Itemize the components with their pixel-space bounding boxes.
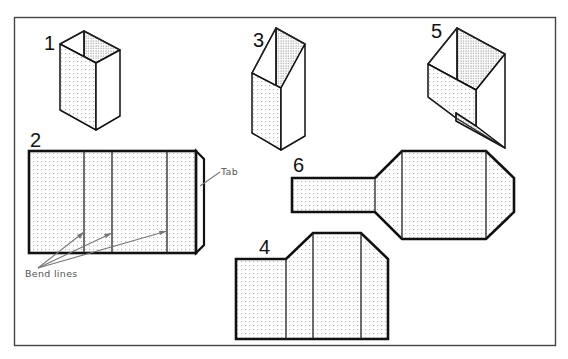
figure-6-development: 6 [292, 151, 514, 239]
figure-5-label: 5 [431, 20, 442, 42]
figure-1-label: 1 [44, 32, 55, 54]
figure-6-label: 6 [293, 154, 304, 176]
figure-4-development: 4 [236, 233, 388, 339]
diagram-canvas: 1 3 5 [0, 0, 568, 359]
figure-3-label: 3 [253, 29, 264, 51]
bend-lines-label: Bend lines [25, 268, 78, 279]
figure-1-prism: 1 [44, 31, 120, 130]
tab-label: Tab [220, 166, 238, 177]
figure-3-truncated-prism: 3 [252, 28, 305, 150]
figure-5-slanted-prism: 5 [428, 20, 505, 148]
figure-2-development: 2 Tab Bend lines [25, 129, 238, 279]
figure-2-label: 2 [30, 129, 41, 151]
figure-4-label: 4 [259, 236, 270, 258]
